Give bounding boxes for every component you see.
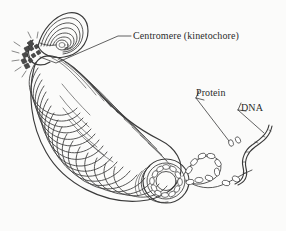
long-arm-solenoid-coil [29, 56, 181, 201]
nucleosome-ring [150, 165, 183, 198]
centromere-constriction [12, 32, 50, 77]
chromosome-diagram: Centromere (kinetochore) Protein DNA [0, 0, 286, 231]
label-centromere: Centromere (kinetochore) [133, 30, 239, 41]
arrow-to-histone-protein [196, 98, 229, 141]
arrow-to-dna-strand [238, 110, 264, 133]
label-dna: DNA [241, 102, 263, 113]
label-protein: Protein [196, 87, 226, 98]
free-histone-protein-pair [228, 136, 242, 147]
short-arm-coil [38, 13, 88, 58]
